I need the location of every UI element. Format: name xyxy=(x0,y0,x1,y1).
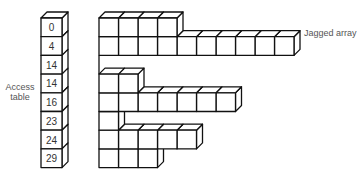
jagged-array-row xyxy=(99,12,183,37)
access-table-value: 0 xyxy=(49,22,55,33)
access-table-value: 23 xyxy=(46,116,58,127)
access-table-value: 29 xyxy=(46,153,58,164)
access-table-value: 16 xyxy=(46,97,58,108)
access-table-label-line2: table xyxy=(2,92,38,102)
jagged-array-cell xyxy=(177,124,203,149)
cube-front-face xyxy=(138,93,158,112)
cube-front-face xyxy=(99,130,119,149)
cube-front-face xyxy=(216,37,236,56)
cube-front-face xyxy=(197,37,217,56)
jagged-array-cell xyxy=(99,130,119,149)
cube-front-face xyxy=(158,130,178,149)
jagged-array-cell xyxy=(119,93,139,112)
jagged-array-cell xyxy=(99,149,119,168)
access-table-value: 14 xyxy=(46,78,58,89)
jagged-array-cell xyxy=(138,37,158,56)
cube-front-face xyxy=(138,130,158,149)
access-table-label: Access table xyxy=(2,82,38,102)
cube-front-face xyxy=(177,93,197,112)
cube-front-face xyxy=(158,93,178,112)
cube-front-face xyxy=(99,18,119,37)
jagged-array-cell xyxy=(99,93,119,112)
jagged-array-label: Jagged array xyxy=(304,28,357,38)
access-table-label-line1: Access xyxy=(2,82,38,92)
cube-front-face xyxy=(216,93,236,112)
cube-front-face xyxy=(158,37,178,56)
cube-front-face xyxy=(138,149,158,168)
jagged-array-cell xyxy=(119,149,139,168)
cube-front-face xyxy=(99,93,119,112)
jagged-array-cell xyxy=(119,68,145,93)
cube-front-face xyxy=(119,93,139,112)
cube-front-face xyxy=(119,37,139,56)
jagged-array-row xyxy=(99,68,144,93)
cube-front-face xyxy=(158,18,178,37)
cube-front-face xyxy=(99,37,119,56)
jagged-array-cell xyxy=(158,12,184,37)
jagged-array-cell xyxy=(99,37,119,56)
cube-front-face xyxy=(119,74,139,93)
cube-front-face xyxy=(119,149,139,168)
cube-front-face xyxy=(275,37,295,56)
cube-front-face xyxy=(177,130,197,149)
cube-front-face xyxy=(99,112,119,131)
cube-front-face xyxy=(99,74,119,93)
cube-front-face xyxy=(255,37,275,56)
jagged-array xyxy=(99,12,300,168)
cube-front-face xyxy=(119,18,139,37)
access-table-cell: 0 xyxy=(41,12,68,37)
cube-front-face xyxy=(138,18,158,37)
access-table-value: 24 xyxy=(46,135,58,146)
cube-front-face xyxy=(236,37,256,56)
cube-front-face xyxy=(177,37,197,56)
jagged-array-cell xyxy=(275,31,301,56)
jagged-array-cell xyxy=(119,37,139,56)
access-table-value: 4 xyxy=(49,41,55,52)
cube-front-face xyxy=(99,149,119,168)
cube-front-face xyxy=(119,130,139,149)
cube-front-face xyxy=(197,93,217,112)
cube-front-face xyxy=(138,37,158,56)
access-table-value: 14 xyxy=(46,60,58,71)
jagged-array-cell xyxy=(216,87,242,112)
jagged-array-cell xyxy=(158,37,178,56)
access-table: 04141416232429 xyxy=(41,12,68,168)
jagged-array-diagram: 04141416232429 xyxy=(0,0,363,176)
